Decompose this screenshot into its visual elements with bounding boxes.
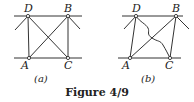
label-C: C xyxy=(64,59,73,72)
member-DA xyxy=(130,16,136,58)
label-B: B xyxy=(63,2,72,15)
figure-4-9: D B A C (a) D B A C (b) Figure 4/9 xyxy=(0,0,194,102)
label-A: A xyxy=(121,59,130,72)
panel-label-b: (b) xyxy=(141,73,155,84)
panel-a: D B A C (a) xyxy=(14,2,82,84)
label-A: A xyxy=(20,59,29,72)
panel-label-a: (a) xyxy=(34,73,48,84)
figure-caption: Figure 4/9 xyxy=(65,86,129,99)
member-AB xyxy=(130,16,176,58)
label-C: C xyxy=(165,59,174,72)
member-BC xyxy=(170,16,176,58)
brace-left xyxy=(15,16,28,30)
label-D: D xyxy=(23,2,33,15)
label-D: D xyxy=(131,2,141,15)
member-DA xyxy=(28,16,29,58)
panel-b: D B A C (b) xyxy=(118,2,189,84)
brace-right xyxy=(68,16,80,29)
label-B: B xyxy=(171,2,180,15)
brace-right xyxy=(176,16,189,29)
